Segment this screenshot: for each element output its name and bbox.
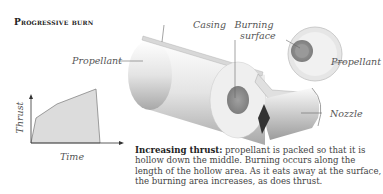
graph-x-label: Time [60, 151, 84, 162]
graph-y-label: Thrust [14, 102, 25, 134]
propellant-cylinder [128, 36, 266, 145]
caption: Increasing thrust: propellant is packed … [135, 145, 383, 186]
propellant-label-left: Propellant [72, 55, 122, 66]
casing-label: Casing [193, 19, 226, 30]
burning-surface-label: Burning surface [234, 19, 274, 41]
nozzle-label: Nozzle [330, 108, 363, 119]
burning-surface-line1: Burning [234, 19, 274, 30]
caption-heading: Increasing thrust: [135, 145, 222, 155]
cross-section [288, 27, 342, 81]
thrust-graph [29, 89, 124, 145]
propellant-label-right: Propellant [331, 56, 381, 67]
burning-surface-line2: surface [234, 30, 274, 41]
